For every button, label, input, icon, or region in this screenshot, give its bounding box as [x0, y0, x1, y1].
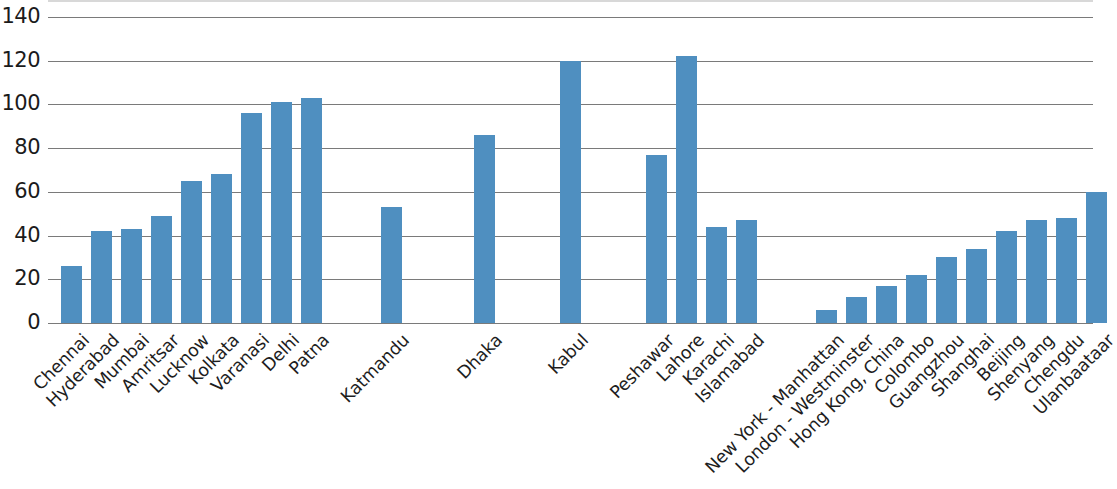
- bar: [181, 181, 202, 323]
- bar: [906, 275, 927, 323]
- bar: [646, 155, 667, 323]
- bar: [211, 174, 232, 323]
- bar: [736, 220, 757, 323]
- bar: [816, 310, 837, 323]
- x-tick-label: Kabul: [544, 330, 592, 378]
- bar: [876, 286, 897, 323]
- y-tick-label-60: 60: [0, 181, 40, 202]
- bar: [936, 257, 957, 323]
- bar: [301, 98, 322, 323]
- bar: [381, 207, 402, 323]
- bar: [271, 102, 292, 323]
- y-tick-label-0: 0: [0, 312, 40, 333]
- bar: [61, 266, 82, 323]
- bar: [121, 229, 142, 323]
- bar: [1026, 220, 1047, 323]
- y-tick-label-100: 100: [0, 93, 40, 114]
- bar: [560, 61, 581, 323]
- bar: [91, 231, 112, 323]
- bar: [996, 231, 1017, 323]
- y-tick-label-20: 20: [0, 268, 40, 289]
- bar: [846, 297, 867, 323]
- plot-area: [48, 17, 1093, 323]
- x-tick-label: Dhaka: [453, 330, 506, 383]
- bar: [1056, 218, 1077, 323]
- chart-top-rule: [48, 0, 1093, 2]
- bar: [474, 135, 495, 323]
- bars-layer: [48, 17, 1093, 323]
- bar: [706, 227, 727, 323]
- y-tick-label-80: 80: [0, 137, 40, 158]
- bar: [151, 216, 172, 323]
- bar: [676, 56, 697, 323]
- x-axis-category-labels: ChennaiHyderabadMumbaiAmritsarLucknowKol…: [48, 324, 1093, 489]
- y-tick-label-120: 120: [0, 50, 40, 71]
- bar: [966, 249, 987, 323]
- y-tick-label-140: 140: [0, 6, 40, 27]
- x-tick-label: Katmandu: [337, 330, 414, 407]
- bar: [241, 113, 262, 323]
- y-tick-label-40: 40: [0, 225, 40, 246]
- bar: [1086, 192, 1107, 323]
